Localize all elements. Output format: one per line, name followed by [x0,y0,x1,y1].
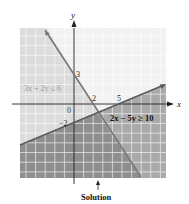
y-intercept-label-neg2: −2 [59,119,68,128]
y-axis-label: y [70,10,75,20]
inequality-label-a: 3x + 2y ≤ 6 [24,84,61,93]
x-axis-label: x [176,99,181,109]
x-axis-arrow-icon [167,102,174,107]
solution-label: Solution [81,192,112,202]
y-axis-arrow-icon [72,20,77,27]
inequality-label-b: 2x − 5y ≥ 10 [110,113,154,123]
origin-label: 0 [67,106,71,115]
inequality-graph: y x 0 3 2 5 −2 3x + 2y ≤ 6 2x − 5y ≥ 10 … [0,0,189,204]
solution-arrow-icon [96,180,100,185]
x-intercept-label-5: 5 [117,94,121,103]
x-intercept-label-2: 2 [92,94,96,103]
y-intercept-label: 3 [76,70,80,79]
